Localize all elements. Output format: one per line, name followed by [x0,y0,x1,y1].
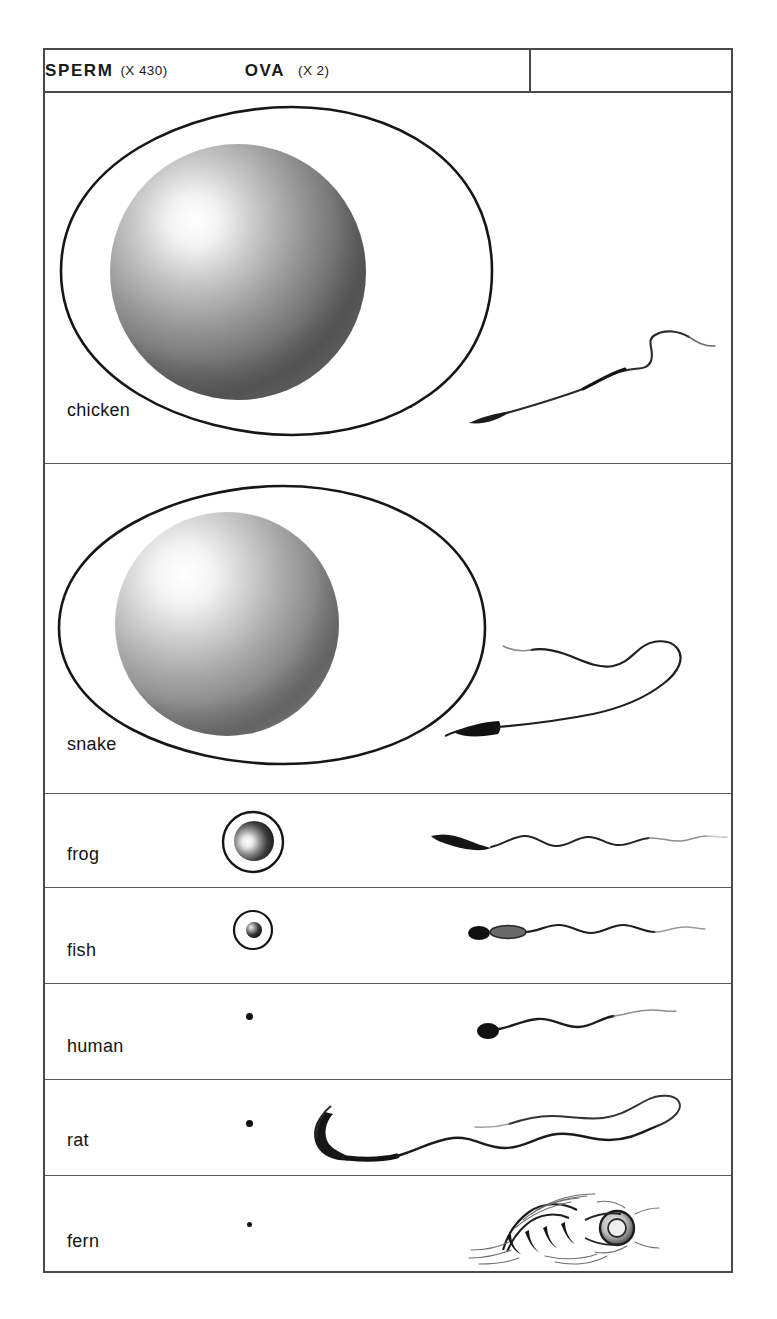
species-label-rat: rat [67,1130,89,1151]
table-row: chicken X 1 [45,93,731,464]
ovum-rat [246,1120,253,1127]
sperm-frog [425,814,731,874]
ovum-fish [221,900,285,964]
table-row: snake [45,464,731,794]
sperm-human [470,998,690,1054]
ova-column-title: OVA [245,61,285,81]
sperm-fern [445,1184,675,1270]
sperm-column-title: SPERM [45,61,113,81]
header-cell-sperm: SPERM (X 430) [45,50,168,91]
sperm-fish [463,906,713,960]
ovum-chicken [45,95,535,445]
species-label-fish: fish [67,940,96,961]
species-label-fern: fern [67,1231,99,1252]
species-label-human: human [67,1036,124,1057]
sperm-chicken [465,321,731,441]
ovum-fern [247,1222,252,1227]
table-row: fish [45,888,731,984]
table-row: rat [45,1080,731,1176]
table-row: frog [45,794,731,888]
ovum-human [246,1013,253,1020]
sperm-magnification-label: (X 430) [120,63,167,78]
comparative-gamete-plate: OVA (X 2) SPERM (X 430) chicken X 1 [43,48,733,1273]
species-label-frog: frog [67,844,99,865]
table-row: fern [45,1176,731,1272]
sperm-snake [445,614,731,754]
ovum-frog [213,804,293,884]
ova-magnification-label: (X 2) [298,63,329,78]
table-header-row: OVA (X 2) SPERM (X 430) [45,50,731,93]
table-row: human [45,984,731,1080]
sperm-rat [303,1090,731,1176]
